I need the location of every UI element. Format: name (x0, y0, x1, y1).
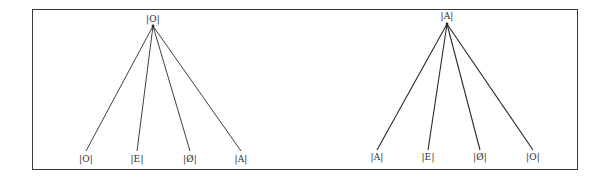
tree-edge (153, 26, 241, 151)
tree-edge (86, 26, 153, 151)
tree-edge (153, 26, 190, 151)
tree-edge (137, 26, 153, 151)
left-leaf-node-e: |E| (130, 154, 143, 164)
left-tree-edges (86, 25, 241, 151)
left-leaf-node-o: |O| (79, 154, 93, 164)
left-root-node: |O| (146, 14, 160, 24)
right-leaf-node-e: |E| (421, 152, 434, 162)
right-leaf-node-o: |O| (526, 152, 540, 162)
right-leaf-node-o-slash: |Ø| (473, 152, 487, 162)
left-leaf-node-a: |A| (234, 154, 247, 164)
left-leaf-node-o-slash: |Ø| (183, 154, 197, 164)
tree-edge (447, 24, 533, 150)
tree-edges (0, 0, 608, 179)
right-leaf-node-a: |A| (370, 152, 383, 162)
tree-edge (428, 24, 447, 150)
tree-edge (377, 24, 447, 150)
right-tree-edges (377, 23, 533, 150)
right-root-node: |A| (440, 11, 453, 21)
tree-edge (447, 24, 480, 150)
